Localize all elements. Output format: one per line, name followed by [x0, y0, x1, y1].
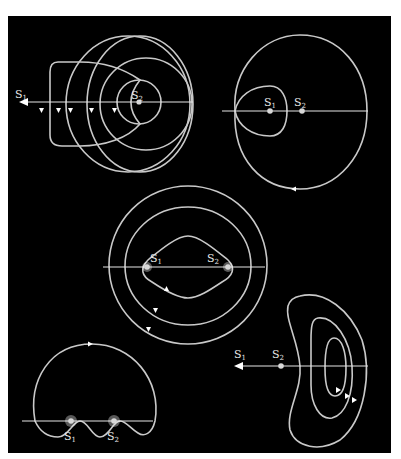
source-s2	[278, 363, 284, 369]
source-s1	[144, 264, 150, 270]
source-s1	[68, 418, 74, 424]
figure-background	[8, 16, 391, 453]
source-s2	[111, 418, 117, 424]
figure: S1 S2 S1 S2 S1 S2 S1 S	[0, 0, 401, 459]
source-s2	[225, 264, 231, 270]
